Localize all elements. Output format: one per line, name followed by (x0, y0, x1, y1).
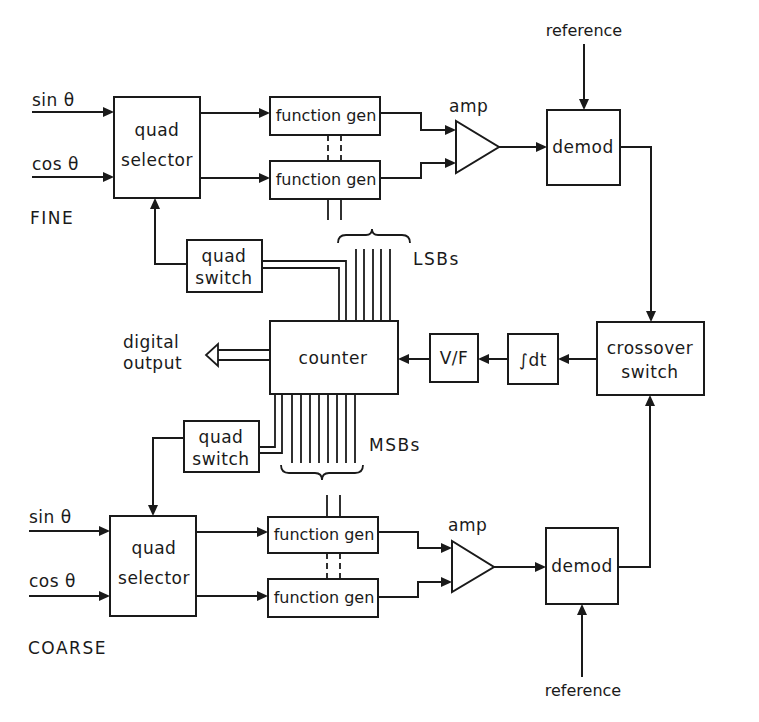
coarse-fg1-to-amp (378, 532, 444, 548)
arrowhead-icon (445, 158, 456, 168)
crossover-switch-label-2: switch (621, 362, 678, 382)
coarse-demod-to-crossover (618, 403, 650, 567)
fine-quad-switch-label-1: quad (202, 246, 247, 266)
fine-quad-switch-label-2: switch (195, 268, 252, 288)
crossover-switch-label-1: crossover (607, 338, 694, 358)
digital-output-label-2: output (123, 353, 182, 373)
coarse-quad-switch-label-2: switch (192, 449, 249, 469)
fine-quadswitch-to-selector (155, 207, 187, 264)
coarse-section-label: COARSE (28, 638, 107, 658)
arrowhead-icon (646, 311, 656, 322)
arrowhead-icon (645, 395, 655, 406)
fine-quad-selector-label-2: selector (121, 150, 193, 170)
fine-bit-line (262, 268, 339, 321)
arrowhead-icon (441, 543, 452, 553)
lsb-brace (338, 229, 410, 243)
msb-bus (292, 394, 355, 463)
arrowhead-icon (441, 577, 452, 587)
arrowhead-icon (577, 604, 587, 615)
coarse-quad-selector-label-2: selector (118, 568, 190, 588)
fine-quad-selector-label-1: quad (135, 120, 180, 140)
fine-fg1-to-amp (380, 113, 448, 130)
arrowhead-icon (257, 527, 268, 537)
coarse-demod-label: demod (551, 556, 613, 576)
coarse-bit-line (259, 394, 275, 447)
coarse-reference-label: reference (545, 681, 621, 700)
fine-quad-selector (114, 97, 200, 198)
fine-demod-to-crossover (620, 147, 651, 314)
arrowhead-icon (103, 172, 114, 182)
coarse-quad-selector (110, 516, 196, 616)
arrowhead-icon (535, 562, 546, 572)
fine-bit-line (262, 261, 346, 321)
arrowhead-icon (478, 354, 489, 364)
digital-output-label-1: digital (123, 332, 179, 352)
coarse-quadswitch-to-selector (153, 438, 184, 508)
digital-output-arrow-icon (206, 344, 270, 366)
fine-amp-label: amp (449, 96, 488, 116)
arrowhead-icon (445, 125, 456, 135)
fine-function-gen-2-label: function gen (276, 170, 377, 189)
coarse-cos-input-label: cos θ (29, 571, 76, 591)
arrowhead-icon (579, 99, 589, 110)
coarse-quad-selector-label-1: quad (132, 538, 177, 558)
integrator-label: ∫dt (519, 350, 547, 370)
arrowhead-icon (398, 354, 409, 364)
fine-reference-label: reference (546, 21, 622, 40)
arrowhead-icon (99, 526, 110, 536)
arrowhead-icon (103, 107, 114, 117)
crossover-switch (597, 322, 704, 395)
fine-demod-label: demod (552, 137, 614, 157)
vf-label: V/F (440, 348, 469, 368)
block-diagram: sin θ cos θ quad selector function gen f… (0, 0, 759, 722)
fine-function-gen-1-label: function gen (276, 106, 377, 125)
coarse-fg2-to-amp (378, 582, 444, 597)
arrowhead-icon (99, 591, 110, 601)
coarse-sin-input-label: sin θ (29, 507, 72, 527)
fine-section-label: FINE (30, 208, 74, 228)
msb-label: MSBs (369, 435, 421, 455)
arrowhead-icon (259, 108, 270, 118)
counter-label: counter (299, 348, 368, 368)
msb-brace (281, 465, 363, 480)
coarse-quad-switch-label-1: quad (199, 427, 244, 447)
lsb-label: LSBs (413, 249, 460, 269)
coarse-amp-label: amp (448, 515, 487, 535)
fine-fg2-to-amp (380, 163, 448, 178)
coarse-bit-line (259, 394, 282, 453)
coarse-function-gen-2-label: function gen (274, 588, 375, 607)
arrowhead-icon (536, 142, 547, 152)
fine-amp-triangle (456, 121, 499, 173)
arrowhead-icon (259, 173, 270, 183)
fine-sin-input-label: sin θ (32, 90, 75, 110)
arrowhead-icon (257, 591, 268, 601)
arrowhead-icon (148, 505, 158, 516)
arrowhead-icon (558, 354, 569, 364)
fine-cos-input-label: cos θ (32, 154, 79, 174)
coarse-function-gen-1-label: function gen (274, 525, 375, 544)
lsb-bus (356, 249, 390, 321)
coarse-amp-triangle (452, 541, 494, 592)
arrowhead-icon (150, 198, 160, 209)
